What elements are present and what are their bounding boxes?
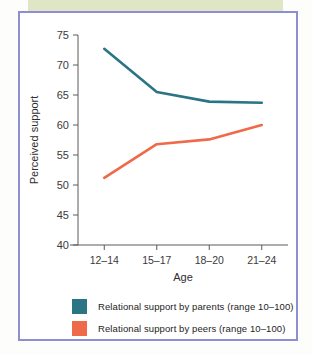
- plot-area: 404550556065707512–1415–1718–2021–24AgeP…: [20, 13, 296, 339]
- svg-text:70: 70: [57, 59, 69, 71]
- svg-text:75: 75: [57, 29, 69, 41]
- svg-text:45: 45: [57, 209, 69, 221]
- legend-label-parents: Relational support by parents (range 10–…: [98, 301, 294, 312]
- svg-text:55: 55: [57, 149, 69, 161]
- legend-swatch-peers: [72, 321, 87, 336]
- chart-frame: 404550556065707512–1415–1718–2021–24AgeP…: [18, 11, 298, 341]
- svg-text:15–17: 15–17: [142, 254, 171, 266]
- svg-text:65: 65: [57, 89, 69, 101]
- svg-text:21–24: 21–24: [247, 254, 276, 266]
- legend-item: Relational support by parents (range 10–…: [72, 297, 292, 316]
- legend-swatch-parents: [72, 299, 87, 314]
- svg-text:18–20: 18–20: [195, 254, 224, 266]
- line-chart: 404550556065707512–1415–1718–2021–24AgeP…: [20, 13, 296, 293]
- svg-text:50: 50: [57, 179, 69, 191]
- legend-item: Relational support by peers (range 10–10…: [72, 319, 292, 338]
- chart-legend: Relational support by parents (range 10–…: [72, 297, 292, 341]
- svg-text:60: 60: [57, 119, 69, 131]
- svg-text:40: 40: [57, 239, 69, 251]
- legend-label-peers: Relational support by peers (range 10–10…: [98, 323, 285, 334]
- figure-canvas: 404550556065707512–1415–1718–2021–24AgeP…: [0, 0, 312, 355]
- svg-text:Age: Age: [173, 271, 193, 283]
- svg-text:12–14: 12–14: [90, 254, 119, 266]
- svg-text:Perceived support: Perceived support: [28, 96, 40, 185]
